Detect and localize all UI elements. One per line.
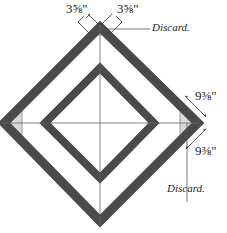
top-right-dimension-label: 3⅝" xyxy=(117,1,139,17)
top-left-dimension-label: 3⅝" xyxy=(66,1,88,17)
right-upper-dimension-label: 9⅜" xyxy=(195,88,217,104)
top-discard-label: Discard. xyxy=(152,21,190,33)
quilt-block-diagram xyxy=(0,0,227,233)
bottom-discard-label: Discard. xyxy=(167,182,205,194)
right-lower-dimension-label: 9⅜" xyxy=(195,143,217,159)
